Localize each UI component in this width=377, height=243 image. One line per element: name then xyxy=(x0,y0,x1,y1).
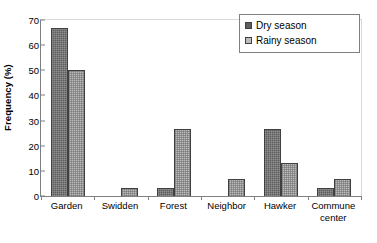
y-tick-10: 10 xyxy=(28,165,41,176)
bar-swidden-rainy[interactable] xyxy=(121,188,138,196)
legend-item-dry-season[interactable]: Dry season xyxy=(245,18,359,33)
bar-commune-center-rainy[interactable] xyxy=(334,179,351,196)
legend-label: Dry season xyxy=(256,20,307,31)
bar-forest-dry[interactable] xyxy=(157,188,174,196)
y-tick-30: 30 xyxy=(28,115,41,126)
x-label-commune-center: Communecenter xyxy=(307,200,360,224)
legend: Dry season Rainy season xyxy=(239,14,360,53)
legend-swatch-icon xyxy=(245,22,252,29)
y-tick-50: 50 xyxy=(28,65,41,76)
y-tick-20: 20 xyxy=(28,140,41,151)
y-tick-40: 40 xyxy=(28,90,41,101)
bar-garden-rainy[interactable] xyxy=(68,70,85,196)
y-tick-70: 70 xyxy=(28,15,41,26)
x-label-swidden: Swidden xyxy=(93,200,146,224)
bar-chart: Frequency (%) 70 60 50 40 30 20 10 0 xyxy=(0,0,377,243)
x-axis-labels: Garden Swidden Forest Neighbor Hawker Co… xyxy=(40,200,360,224)
x-label-garden: Garden xyxy=(40,200,93,224)
legend-label: Rainy season xyxy=(256,35,317,46)
y-tick-60: 60 xyxy=(28,40,41,51)
y-axis-title: Frequency (%) xyxy=(0,0,14,195)
bar-commune-center-dry[interactable] xyxy=(317,188,334,196)
legend-swatch-icon xyxy=(245,37,252,44)
x-tick-mark xyxy=(361,196,362,200)
legend-item-rainy-season[interactable]: Rainy season xyxy=(245,33,359,48)
bar-hawker-dry[interactable] xyxy=(264,129,281,196)
bar-group-swidden xyxy=(94,20,147,196)
x-label-hawker: Hawker xyxy=(253,200,306,224)
bar-group-garden xyxy=(41,20,94,196)
bar-neighbor-rainy[interactable] xyxy=(228,179,245,196)
bar-forest-rainy[interactable] xyxy=(174,129,191,196)
x-label-forest: Forest xyxy=(147,200,200,224)
y-axis-title-text: Frequency (%) xyxy=(2,64,13,131)
bar-garden-dry[interactable] xyxy=(51,28,68,196)
bar-hawker-rainy[interactable] xyxy=(281,163,298,196)
bar-group-forest xyxy=(148,20,201,196)
x-label-neighbor: Neighbor xyxy=(200,200,253,224)
